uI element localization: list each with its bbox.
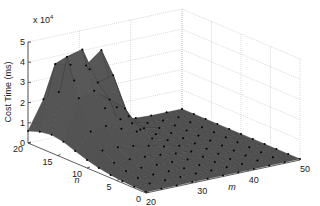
- data-point-marker: [193, 113, 195, 115]
- data-point-marker: [210, 169, 212, 171]
- data-point-marker: [85, 64, 87, 66]
- data-point-marker: [182, 137, 184, 139]
- data-point-marker: [54, 63, 56, 65]
- data-point-marker: [229, 158, 231, 160]
- data-point-marker: [194, 142, 196, 144]
- n-tick-label: 15: [42, 157, 52, 167]
- data-point-marker: [206, 148, 208, 150]
- data-point-marker: [143, 127, 145, 129]
- data-point-marker: [100, 49, 102, 51]
- z-exponent-label: x 104: [33, 14, 54, 25]
- data-point-marker: [97, 82, 99, 84]
- data-point-marker: [175, 152, 177, 154]
- data-point-marker: [125, 170, 127, 172]
- data-point-marker: [110, 174, 112, 176]
- data-point-marker: [287, 153, 289, 155]
- data-point-marker: [113, 162, 115, 164]
- data-point-marker: [233, 150, 235, 152]
- m-tick-label: 40: [249, 175, 259, 185]
- data-point-marker: [213, 131, 215, 133]
- data-point-marker: [221, 145, 223, 147]
- data-point-marker: [226, 166, 228, 168]
- data-point-marker: [275, 148, 277, 150]
- z-tick-label: 4: [20, 57, 25, 67]
- data-point-marker: [163, 145, 165, 147]
- data-point-marker: [252, 138, 254, 140]
- data-point-marker: [119, 118, 121, 120]
- data-point-marker: [240, 133, 242, 135]
- data-point-marker: [168, 170, 170, 172]
- data-point-marker: [272, 156, 274, 158]
- data-point-marker: [155, 133, 157, 135]
- data-point-marker: [42, 98, 44, 100]
- data-point-marker: [181, 108, 183, 110]
- data-point-marker: [58, 91, 60, 93]
- data-point-marker: [116, 106, 118, 108]
- data-point-marker: [159, 154, 161, 156]
- data-point-marker: [260, 151, 262, 153]
- data-point-marker: [66, 56, 68, 58]
- data-point-marker: [205, 118, 207, 120]
- data-point-marker: [73, 80, 75, 82]
- data-point-marker: [264, 143, 266, 145]
- data-point-marker: [93, 90, 95, 92]
- data-point-marker: [137, 177, 139, 179]
- data-point-marker: [149, 182, 151, 184]
- data-point-marker: [128, 115, 130, 117]
- data-point-marker: [109, 99, 111, 101]
- data-point-marker: [201, 126, 203, 128]
- z-tick-label: 1: [20, 118, 25, 128]
- data-point-marker: [112, 74, 114, 76]
- z-tick-label: 5: [20, 37, 25, 47]
- surface-plot: [27, 48, 301, 193]
- data-point-marker: [217, 153, 219, 155]
- data-point-marker: [117, 146, 119, 148]
- z-gridline: [28, 9, 300, 59]
- data-point-marker: [135, 117, 137, 119]
- data-point-marker: [90, 130, 92, 132]
- data-point-marker: [98, 167, 100, 169]
- data-point-marker: [197, 135, 199, 137]
- data-point-marker: [78, 97, 80, 99]
- data-point-marker: [189, 121, 191, 123]
- n-tick: [87, 167, 90, 168]
- n-tick-label: 5: [106, 182, 111, 192]
- data-point-marker: [74, 150, 76, 152]
- data-point-marker: [62, 141, 64, 143]
- data-point-marker: [120, 128, 122, 130]
- data-point-marker: [150, 115, 152, 117]
- data-point-marker: [39, 131, 41, 133]
- data-point-marker: [216, 123, 218, 125]
- data-point-marker: [198, 164, 200, 166]
- data-point-marker: [174, 125, 176, 127]
- data-point-marker: [51, 134, 53, 136]
- data-point-marker: [121, 180, 123, 182]
- data-point-marker: [86, 159, 88, 161]
- data-point-marker: [214, 161, 216, 163]
- data-point-marker: [144, 156, 146, 158]
- data-point-marker: [140, 167, 142, 169]
- data-point-marker: [164, 179, 166, 181]
- data-point-marker: [152, 174, 154, 176]
- data-point-marker: [101, 150, 103, 152]
- data-point-marker: [202, 156, 204, 158]
- data-point-marker: [178, 145, 180, 147]
- data-point-marker: [209, 140, 211, 142]
- data-point-marker: [236, 141, 238, 143]
- n-tick: [58, 155, 61, 156]
- data-point-marker: [241, 163, 243, 165]
- m-tick-label: 30: [197, 186, 207, 196]
- data-point-marker: [179, 176, 181, 178]
- data-point-marker: [148, 145, 150, 147]
- z-axis-label: Cost Time (ms): [3, 61, 13, 122]
- data-point-marker: [89, 68, 91, 70]
- data-point-marker: [171, 161, 173, 163]
- data-point-marker: [190, 150, 192, 152]
- data-point-marker: [228, 128, 230, 130]
- data-point-marker: [124, 107, 126, 109]
- n-tick-label: 20: [13, 144, 23, 154]
- n-tick-label: 0: [136, 194, 141, 204]
- data-point-marker: [170, 132, 172, 134]
- data-point-marker: [132, 145, 134, 147]
- z-tick-label: 3: [20, 77, 25, 87]
